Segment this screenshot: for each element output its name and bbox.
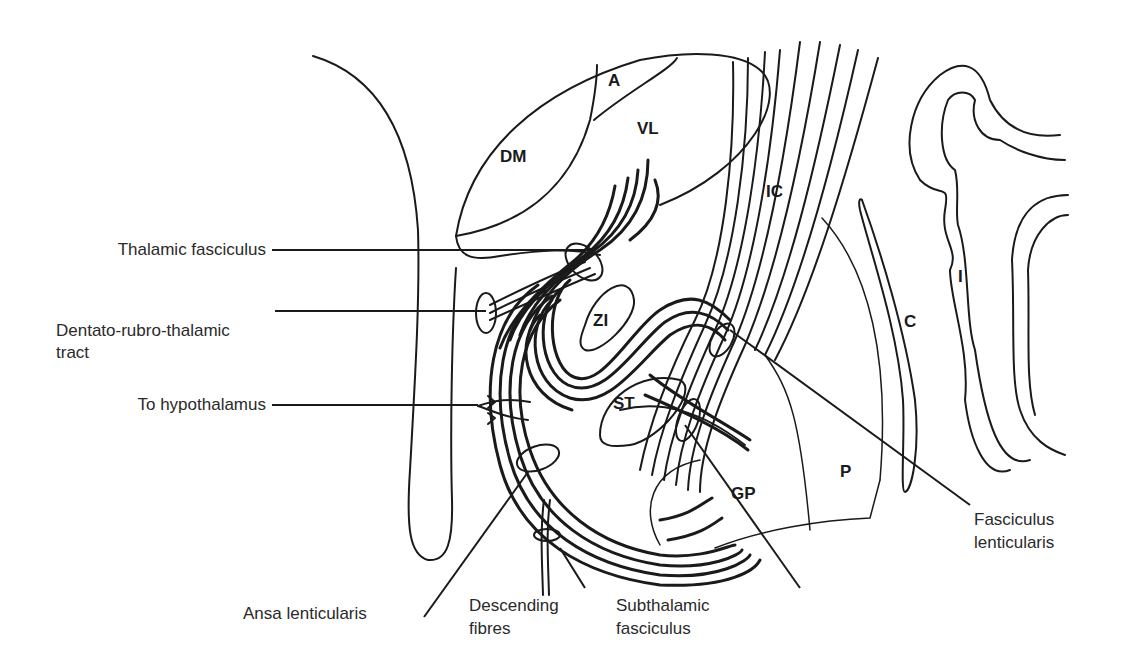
a-boundary (594, 58, 677, 120)
descending-fibres (542, 500, 544, 595)
label-fasciculus-line2: lenticularis (974, 533, 1054, 553)
label-globus-pallidus: GP (731, 485, 756, 503)
label-to-hypothalamus: To hypothalamus (137, 395, 266, 415)
label-descending-line1: Descending (469, 596, 559, 616)
label-descending-line2: fibres (469, 619, 511, 639)
hypothalamus-branch (478, 400, 530, 406)
insula-outline (910, 66, 1060, 472)
gp-outline (650, 460, 700, 545)
label-ansa-lenticularis: Ansa lenticularis (243, 604, 367, 624)
label-dentato-line1: Dentato-rubro-thalamic (56, 321, 230, 341)
label-fasciculus-line1: Fasciculus (974, 510, 1054, 530)
label-dentato-line2: tract (56, 343, 89, 363)
label-putamen: P (840, 463, 851, 481)
dm-boundary (456, 65, 597, 236)
label-thalamic-fasciculus: Thalamic fasciculus (118, 240, 266, 260)
leader-descending (560, 548, 585, 588)
label-subthalamic-line1: Subthalamic (616, 596, 710, 616)
label-internal-capsule: IC (766, 183, 783, 201)
thalamus-lower (456, 236, 600, 258)
label-insula: I (958, 268, 963, 286)
ventricle-outline (313, 56, 456, 560)
label-subthalamic-line2: fasciculus (616, 619, 691, 639)
putamen-medial (765, 355, 810, 530)
label-zona-incerta: ZI (593, 312, 608, 330)
claustrum-outline (859, 199, 916, 492)
label-subthalamic-nucleus: ST (613, 395, 635, 413)
dentato-ring (476, 293, 496, 333)
label-claustrum: C (904, 313, 916, 331)
label-anterior-nucleus: A (608, 72, 620, 90)
label-ventrolateral-nucleus: VL (637, 120, 659, 138)
thalamic-fibres (500, 160, 658, 348)
label-dorsomedial-nucleus: DM (500, 148, 526, 166)
ansa-fibres (526, 280, 730, 410)
